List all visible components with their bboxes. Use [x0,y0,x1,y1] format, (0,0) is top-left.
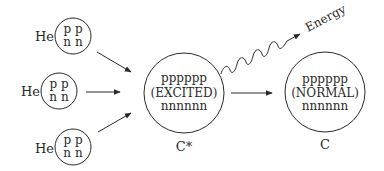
helium-label: He [35,29,54,44]
helium-neutrons: n n [49,90,69,104]
helium-nucleus-middle: He p p n n [21,73,77,109]
arrow-bottom-icon [98,113,131,132]
helium-neutrons: n n [63,35,83,49]
energy-label: Energy [303,2,348,35]
normal-state-label: (NORMAL) [291,86,359,100]
excited-neutrons: nnnnnn [161,99,208,113]
excited-state-label: (EXCITED) [151,86,218,100]
normal-nucleus-label: C [320,137,330,152]
helium-label: He [21,84,40,99]
arrow-top-icon [97,52,131,72]
helium-protons: p p [63,133,82,147]
helium-nucleus-bottom: He p p n n [35,129,91,165]
helium-nucleus-top: He p p n n [35,18,91,54]
normal-carbon-nucleus: pppppp (NORMAL) nnnnnn C [285,52,365,152]
helium-protons: p p [63,22,82,36]
carbon-formation-diagram: He p p n n He p p n n He p p n n pppppp … [0,0,384,171]
excited-nucleus-label: C* [176,139,193,154]
helium-neutrons: n n [63,146,83,160]
normal-neutrons: nnnnnn [302,99,349,113]
excited-protons: pppppp [161,71,207,85]
normal-protons: pppppp [302,72,348,86]
helium-label: He [35,141,54,156]
helium-protons: p p [49,77,68,91]
energy-wave-icon [221,34,300,74]
excited-carbon-nucleus: pppppp (EXCITED) nnnnnn C* [144,53,224,154]
